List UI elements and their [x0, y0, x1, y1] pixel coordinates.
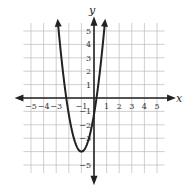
x-tick-label: 1 — [104, 102, 109, 111]
curve-arrowhead-icon — [101, 19, 108, 27]
x-tick-label: 5 — [154, 102, 159, 111]
x-axis-left-arrow-icon — [15, 95, 24, 102]
x-tick-label: −5 — [25, 102, 37, 111]
y-tick-label: −5 — [79, 161, 91, 170]
curve-arrowhead-icon — [55, 19, 62, 27]
y-axis-label: y — [88, 4, 96, 17]
x-axis-right-arrow-icon — [167, 95, 176, 102]
y-tick-label: 1 — [86, 81, 91, 90]
x-axis-label: x — [176, 92, 183, 105]
y-tick-label: 5 — [86, 27, 91, 36]
x-tick-label: 4 — [142, 102, 147, 111]
coordinate-plane: −5−4−3−11234554321−1−2−3−5 x y — [0, 0, 187, 185]
x-tick-label: 2 — [117, 102, 122, 111]
x-tick-label: 3 — [129, 102, 134, 111]
x-tick-label: −3 — [50, 102, 62, 111]
y-tick-label: 2 — [86, 67, 91, 76]
y-tick-label: 3 — [86, 54, 91, 63]
x-tick-label: −4 — [38, 102, 50, 111]
y-axis-down-arrow-icon — [91, 176, 98, 185]
y-tick-label: −1 — [79, 107, 91, 116]
y-tick-label: −2 — [79, 121, 91, 130]
y-tick-label: 4 — [86, 40, 91, 49]
y-axis-up-arrow-icon — [91, 16, 98, 25]
